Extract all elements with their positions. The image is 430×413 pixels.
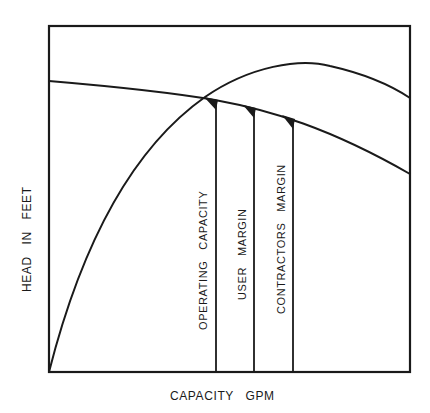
- operating-point-marker: [204, 97, 218, 110]
- user-margin-label: USER MARGIN: [236, 208, 248, 300]
- user-margin-marker: [243, 105, 256, 118]
- plot-frame: [49, 26, 410, 372]
- pump-head-curve: [49, 81, 410, 174]
- y-axis-label: HEAD IN FEET: [20, 186, 34, 292]
- operating-capacity-label: OPERATING CAPACITY: [197, 191, 209, 330]
- contractors-margin-marker: [282, 115, 295, 129]
- contractors-margin-label: CONTRACTORS MARGIN: [275, 164, 287, 314]
- system-curve: [49, 63, 410, 372]
- x-axis-label: CAPACITY GPM: [170, 389, 275, 403]
- pump-curve-diagram: OPERATING CAPACITY USER MARGIN CONTRACTO…: [0, 0, 430, 413]
